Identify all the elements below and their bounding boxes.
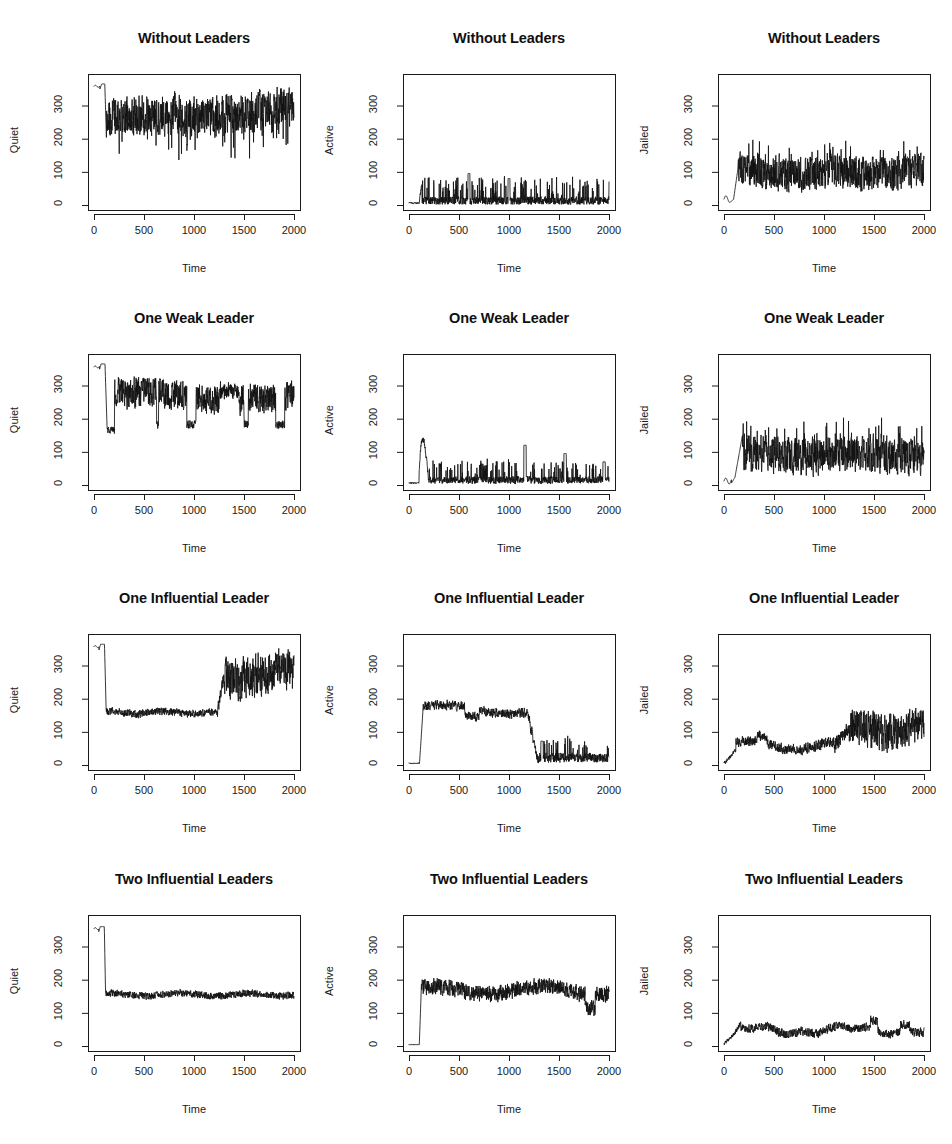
y-tick-label: 300: [682, 644, 694, 684]
plot-canvas-r3c2: [698, 901, 944, 1075]
plot-box: [719, 355, 931, 491]
y-axis-label: Jailed: [638, 936, 650, 1026]
plot-panel-r1c2: One Weak LeaderJailed0100200300050010001…: [0, 310, 952, 590]
plot-panel-r0c2: Without LeadersJailed0100200300050010001…: [0, 30, 952, 310]
plot-canvas-r1c2: [698, 340, 944, 514]
plot-canvas-r2c2: [698, 620, 944, 794]
y-axis-label: Jailed: [638, 655, 650, 745]
plot-title: One Weak Leader: [658, 310, 952, 326]
series-line-jailed: [724, 1016, 924, 1045]
x-axis-label: Time: [678, 262, 952, 274]
y-tick-label: 300: [682, 84, 694, 124]
series-line-jailed: [724, 708, 924, 764]
plot-title: One Influential Leader: [658, 590, 952, 606]
y-tick-label: 300: [682, 925, 694, 965]
plot-box: [719, 75, 931, 211]
y-tick-label: 300: [682, 364, 694, 404]
x-axis-label: Time: [678, 822, 952, 834]
y-axis-label: Jailed: [638, 375, 650, 465]
x-axis-label: Time: [678, 1103, 952, 1115]
plot-canvas-r0c2: [698, 60, 944, 234]
series-line-jailed: [724, 418, 924, 484]
plot-box: [719, 635, 931, 771]
series-line-jailed: [724, 140, 924, 202]
plot-panel-r2c2: One Influential LeaderJailed010020030005…: [0, 590, 952, 870]
x-axis-label: Time: [678, 542, 952, 554]
plot-grid: Without LeadersQuiet01002003000500100015…: [0, 0, 952, 1144]
plot-panel-r3c2: Two Influential LeadersJailed01002003000…: [0, 871, 952, 1144]
plot-title: Without Leaders: [658, 30, 952, 46]
y-axis-label: Jailed: [638, 95, 650, 185]
plot-title: Two Influential Leaders: [658, 871, 952, 887]
